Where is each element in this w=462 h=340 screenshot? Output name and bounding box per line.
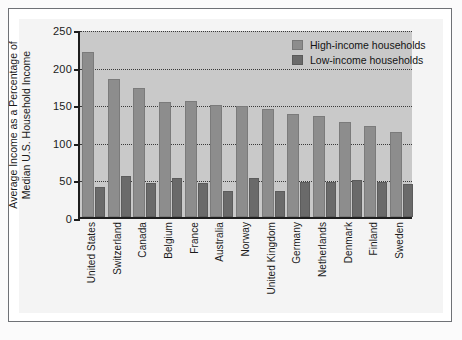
bar-group bbox=[260, 31, 286, 217]
bar-high-income bbox=[133, 88, 145, 217]
x-axis-label-slot: Germany bbox=[284, 222, 310, 304]
bar-high-income bbox=[210, 105, 222, 217]
bar-group bbox=[208, 31, 234, 217]
x-axis-label-slot: Netherlands bbox=[309, 222, 335, 304]
bar-high-income bbox=[339, 122, 351, 218]
legend-label-high-income: High-income households bbox=[310, 39, 426, 51]
plot-area: High-income households Low-income househ… bbox=[78, 31, 412, 219]
bar-low-income bbox=[377, 182, 387, 217]
x-axis-label-slot: Norway bbox=[232, 222, 258, 304]
y-axis-tick-labels: 050100150200250 bbox=[44, 31, 72, 219]
y-axis-tick-label: 250 bbox=[53, 25, 72, 37]
x-axis-category-label: Norway bbox=[239, 222, 250, 257]
bar-high-income bbox=[390, 132, 402, 217]
bar-low-income bbox=[300, 182, 310, 217]
bar-low-income bbox=[223, 191, 233, 217]
bar-low-income bbox=[198, 183, 208, 217]
x-axis-label-slot: Belgium bbox=[155, 222, 181, 304]
y-axis-tick-label: 150 bbox=[53, 100, 72, 112]
x-axis-category-label: Denmark bbox=[342, 222, 353, 263]
y-axis-title-line-2: Median U.S. Household Income bbox=[20, 51, 33, 199]
bar-low-income bbox=[352, 180, 362, 217]
bar-group bbox=[234, 31, 260, 217]
x-axis-category-label: Switzerland bbox=[111, 222, 122, 275]
x-axis-label-slot: France bbox=[181, 222, 207, 304]
legend-swatch-low-income-icon bbox=[292, 55, 303, 65]
x-axis-category-label: Netherlands bbox=[317, 222, 328, 277]
bar-high-income bbox=[313, 116, 325, 217]
x-axis-label-slot: Denmark bbox=[335, 222, 361, 304]
bar-low-income bbox=[403, 184, 413, 217]
x-axis-label-slot: United Kingdom bbox=[258, 222, 284, 304]
bar-group bbox=[157, 31, 183, 217]
y-axis-tick bbox=[74, 219, 80, 221]
x-axis-label-slot: Australia bbox=[206, 222, 232, 304]
x-axis-category-label: Canada bbox=[137, 222, 148, 258]
x-axis-category-label: Australia bbox=[214, 222, 225, 262]
y-axis-tick-label: 50 bbox=[59, 175, 72, 187]
bar-group bbox=[106, 31, 132, 217]
bar-high-income bbox=[82, 52, 94, 217]
x-axis-category-label: Sweden bbox=[394, 222, 405, 259]
x-axis-category-labels: United StatesSwitzerlandCanadaBelgiumFra… bbox=[78, 222, 412, 304]
bar-high-income bbox=[364, 126, 376, 217]
bar-group bbox=[183, 31, 209, 217]
legend-item-low-income: Low-income households bbox=[292, 54, 426, 66]
bar-low-income bbox=[326, 182, 336, 217]
bar-high-income bbox=[236, 106, 248, 217]
x-axis-category-label: Finland bbox=[368, 222, 379, 256]
bar-low-income bbox=[172, 178, 182, 217]
legend-swatch-high-income-icon bbox=[292, 40, 303, 50]
x-axis-category-label: United Kingdom bbox=[265, 222, 276, 295]
bar-group bbox=[80, 31, 106, 217]
bar-low-income bbox=[275, 191, 285, 217]
figure-page: Average Income as a Percentage of Median… bbox=[0, 0, 462, 340]
x-axis-label-slot: United States bbox=[78, 222, 104, 304]
x-axis-category-label: Belgium bbox=[162, 222, 173, 259]
bar-high-income bbox=[159, 102, 171, 217]
bar-high-income bbox=[262, 109, 274, 217]
x-axis-category-label: Germany bbox=[291, 222, 302, 264]
x-axis-category-label: France bbox=[188, 222, 199, 254]
legend: High-income households Low-income househ… bbox=[292, 39, 426, 69]
x-axis-label-slot: Canada bbox=[129, 222, 155, 304]
legend-item-high-income: High-income households bbox=[292, 39, 426, 51]
bar-low-income bbox=[121, 176, 131, 217]
legend-label-low-income: Low-income households bbox=[310, 54, 423, 66]
x-axis-category-label: United States bbox=[85, 222, 96, 283]
y-axis-title-line-1: Average Income as a Percentage of bbox=[7, 41, 20, 208]
y-axis-tick-label: 0 bbox=[66, 213, 72, 225]
x-axis-label-slot: Switzerland bbox=[104, 222, 130, 304]
bar-low-income bbox=[95, 187, 105, 217]
y-axis-tick-label: 200 bbox=[53, 63, 72, 75]
bar-high-income bbox=[287, 114, 299, 217]
bar-group bbox=[131, 31, 157, 217]
y-axis-tick-label: 100 bbox=[53, 138, 72, 150]
x-axis-label-slot: Finland bbox=[361, 222, 387, 304]
bar-high-income bbox=[108, 79, 120, 217]
y-axis-title: Average Income as a Percentage of Median… bbox=[0, 22, 42, 228]
x-axis-label-slot: Sweden bbox=[386, 222, 412, 304]
bar-high-income bbox=[185, 101, 197, 217]
bar-low-income bbox=[146, 183, 156, 217]
bar-low-income bbox=[249, 178, 259, 217]
